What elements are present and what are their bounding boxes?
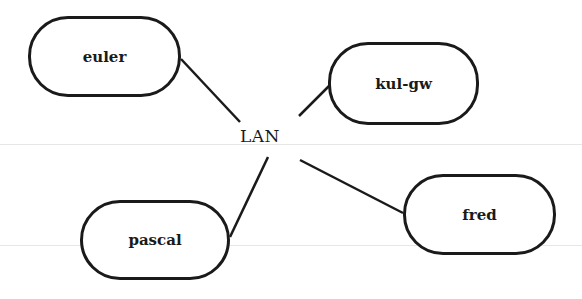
node-pascal: pascal [80,200,230,280]
node-euler: euler [28,16,181,97]
edge-lan-kul-gw [299,86,329,116]
node-kul-gw: kul-gw [328,42,479,125]
node-label: euler [83,48,127,66]
hub-lan-label: LAN [240,126,280,146]
node-label: kul-gw [375,75,432,93]
edge-lan-euler [181,59,240,122]
edge-lan-fred [300,160,403,213]
edge-lan-pascal [230,157,268,237]
node-label: pascal [128,231,181,249]
node-fred: fred [403,174,556,255]
node-label: fred [462,206,496,224]
